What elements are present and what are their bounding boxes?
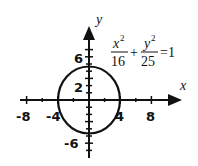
y-tick-label: 6 — [74, 51, 83, 66]
y-tick-label: 2 — [74, 80, 83, 95]
svg-text:y: y — [142, 36, 151, 51]
svg-text:25: 25 — [141, 54, 155, 69]
svg-text:2: 2 — [120, 33, 125, 43]
y-axis-label: y — [94, 12, 103, 27]
x-tick-label: -8 — [16, 109, 30, 124]
svg-text:2: 2 — [151, 33, 156, 43]
ellipse-graph: -8 -4 4 8 6 2 -6 x y x 2 16 + y 2 25 =1 — [0, 0, 198, 166]
x-axis-label: x — [179, 78, 187, 93]
svg-text:+: + — [130, 45, 138, 60]
svg-text:16: 16 — [111, 54, 125, 69]
svg-text:=1: =1 — [160, 45, 175, 60]
x-axis-arrow-icon — [168, 94, 182, 106]
y-tick-label: -6 — [64, 136, 78, 151]
x-tick-label: -4 — [46, 109, 60, 124]
y-axis-arrow-icon — [83, 26, 95, 40]
x-tick-label: 4 — [115, 109, 124, 124]
x-tick-label: 8 — [146, 109, 155, 124]
svg-text:x: x — [112, 36, 120, 51]
equation: x 2 16 + y 2 25 =1 — [111, 33, 175, 69]
